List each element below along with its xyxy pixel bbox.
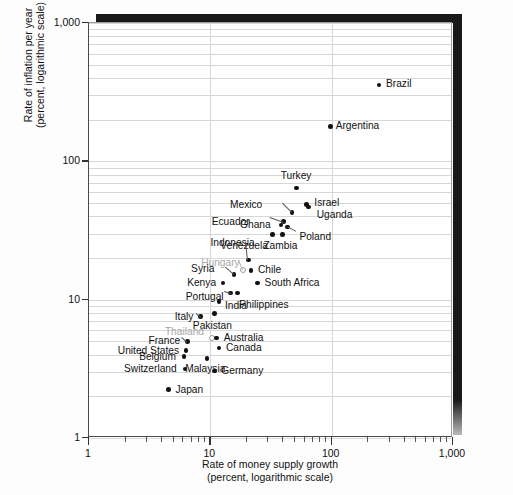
data-point-label: Ghana — [240, 220, 271, 230]
x-axis-tick — [312, 437, 313, 442]
gridline-horizontal — [89, 203, 451, 204]
data-point-label: Turkey — [281, 171, 312, 181]
gridline-horizontal — [89, 120, 451, 121]
x-axis-tick — [452, 437, 453, 445]
data-point-label: Poland — [299, 232, 331, 242]
y-axis-tick-label: 1 — [32, 431, 80, 443]
y-axis-tick-label: 100 — [32, 154, 80, 166]
data-point-label: Switzerland — [124, 364, 177, 374]
gridline-horizontal — [89, 44, 451, 45]
gridline-horizontal — [89, 65, 451, 66]
x-axis-tick — [246, 437, 247, 442]
x-axis-tick-label: 10 — [179, 447, 239, 459]
gridline-horizontal — [89, 330, 451, 331]
x-axis-tick — [325, 437, 326, 442]
x-axis-tick — [204, 437, 205, 442]
data-point-label: Uganda — [317, 210, 353, 220]
data-point[interactable] — [214, 336, 219, 341]
gridline-horizontal — [89, 313, 451, 314]
gridline-horizontal — [89, 168, 451, 169]
gridline-horizontal — [89, 161, 451, 162]
x-axis-tick — [161, 437, 162, 442]
x-axis-tick — [209, 437, 210, 445]
gridline-horizontal — [89, 54, 451, 55]
x-axis-tick — [282, 437, 283, 442]
gridline-horizontal — [89, 396, 451, 397]
data-point-label: Canada — [226, 343, 262, 353]
chart-figure: Rate of inflation per year (percent, log… — [0, 0, 513, 495]
y-axis-tick-label: 1,000 — [32, 16, 80, 28]
gridline-horizontal — [89, 23, 451, 24]
gridline-horizontal — [89, 36, 451, 37]
y-axis-tick — [82, 299, 88, 300]
gridline-vertical — [332, 23, 333, 436]
data-point-label: Indonesia — [210, 238, 254, 248]
data-point[interactable] — [235, 291, 240, 296]
x-axis-tick — [198, 437, 199, 442]
x-axis-tick — [173, 437, 174, 442]
data-point-label: Brazil — [386, 79, 411, 89]
data-point[interactable] — [328, 124, 333, 129]
x-axis-tick — [146, 437, 147, 442]
x-axis-tick — [294, 437, 295, 442]
x-axis-tick-label: 1,000 — [422, 447, 482, 459]
data-point-label: Belgium — [139, 352, 176, 362]
data-point[interactable] — [270, 232, 275, 237]
data-point[interactable] — [212, 369, 217, 374]
frame-shadow-right — [453, 14, 462, 428]
gridline-horizontal — [89, 29, 451, 30]
gridline-horizontal — [89, 321, 451, 322]
frame-shadow-right-fade — [453, 400, 462, 435]
x-axis-tick — [125, 437, 126, 442]
data-point[interactable] — [249, 268, 254, 273]
x-axis-tick — [267, 437, 268, 442]
gridline-horizontal — [89, 192, 451, 193]
data-point[interactable] — [166, 387, 171, 392]
data-point-label: Italy — [175, 312, 194, 322]
data-point-label: Argentina — [336, 121, 380, 131]
x-axis-tick-label: 100 — [301, 447, 361, 459]
x-axis-tick-label: 1 — [58, 447, 118, 459]
data-point[interactable] — [280, 232, 285, 237]
data-point-label: Japan — [175, 385, 203, 395]
x-axis-tick — [446, 437, 447, 442]
data-point-label: Kenya — [187, 278, 216, 288]
x-axis-tick — [389, 437, 390, 442]
x-axis-tick — [367, 437, 368, 442]
y-axis-tick — [82, 22, 88, 23]
data-point[interactable] — [184, 348, 189, 353]
data-point-label: Germany — [221, 366, 263, 376]
x-axis-tick — [415, 437, 416, 442]
data-point-label: South Africa — [265, 278, 320, 288]
x-axis-tick — [88, 437, 89, 445]
data-point[interactable] — [255, 281, 260, 286]
x-axis-title: Rate of money supply growth (percent, lo… — [88, 458, 452, 483]
data-point[interactable] — [212, 311, 217, 316]
gridline-horizontal — [89, 341, 451, 342]
x-axis-tick — [440, 437, 441, 442]
data-point-label: Chile — [258, 265, 281, 275]
y-axis-tick-label: 10 — [32, 293, 80, 305]
data-point-label: Syria — [191, 264, 214, 274]
data-point-label: India — [225, 301, 247, 311]
x-axis-tick — [319, 437, 320, 442]
data-point-label: Malaysia — [185, 364, 225, 374]
data-point-label: Mexico — [230, 200, 262, 210]
x-axis-tick — [304, 437, 305, 442]
x-axis-tick — [331, 437, 332, 445]
gridline-horizontal — [89, 438, 451, 439]
x-axis-tick — [182, 437, 183, 442]
gridline-horizontal — [89, 258, 451, 259]
gridline-horizontal — [89, 95, 451, 96]
data-point-label: Israel — [314, 198, 339, 208]
data-point-label: Zambia — [263, 241, 297, 251]
gridline-horizontal — [89, 175, 451, 176]
data-point[interactable] — [294, 186, 299, 191]
x-axis-tick — [433, 437, 434, 442]
y-axis-tick — [82, 160, 88, 161]
gridline-horizontal — [89, 183, 451, 184]
x-axis-tick — [404, 437, 405, 442]
x-axis-tick — [425, 437, 426, 442]
x-axis-tick — [191, 437, 192, 442]
